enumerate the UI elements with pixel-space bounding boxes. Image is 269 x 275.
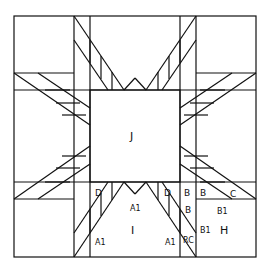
label-b-2: B [200,188,206,198]
label-b-1: B [184,188,190,198]
label-rc: RC [183,236,194,245]
block-outline [14,16,256,257]
label-a1-left: A1 [95,238,106,247]
label-j: J [129,130,133,143]
label-d-right: D [164,188,171,198]
label-i: I [131,224,134,237]
label-c: C [230,189,236,199]
label-b-3: B [185,205,191,215]
label-b1-top: B1 [217,207,228,216]
label-b1-mid: B1 [200,226,211,235]
label-a1-right: A1 [165,238,176,247]
quilt-block-diagram: J I H D D B B B C B1 B1 A1 A1 A1 RC [0,0,269,275]
label-a1-center: A1 [130,204,141,213]
label-h: H [220,224,228,237]
star-points [14,16,256,257]
label-d-left: D [95,188,102,198]
